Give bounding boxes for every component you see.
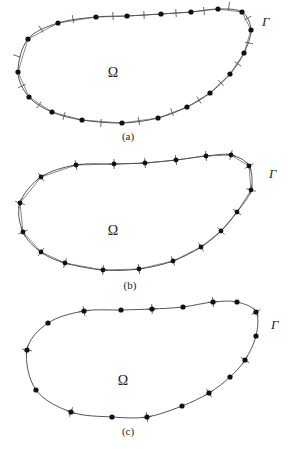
caption-a: (a) [122, 130, 135, 143]
node-dot [174, 158, 179, 163]
node-dot [74, 163, 79, 168]
boundary-label-a: Γ [261, 14, 270, 29]
node-dot [39, 175, 44, 180]
tick-mark [72, 15, 73, 23]
node-dot [204, 154, 209, 159]
boundary-label-b: Γ [268, 166, 277, 181]
node-dot [239, 9, 244, 14]
node-dot [109, 414, 114, 419]
element-ticks-c [22, 297, 260, 422]
caption-c: (c) [122, 425, 135, 438]
figure-b: Ω Γ (b) [15, 150, 277, 292]
figure-a: Ω Γ (a) [13, 2, 270, 143]
node-dot [124, 13, 129, 18]
node-dot [215, 6, 220, 11]
node-dot [219, 229, 224, 234]
node-dot [45, 320, 50, 325]
node-dot [155, 115, 160, 120]
node-dot [144, 414, 149, 419]
node-dot [21, 230, 26, 235]
boundary-curve-c [26, 301, 257, 418]
node-dot [101, 268, 106, 273]
node-dot [93, 14, 98, 19]
element-ticks-a [13, 2, 253, 127]
node-dot [248, 27, 253, 32]
boundary-curve-b [19, 154, 252, 270]
caption-b: (b) [124, 279, 137, 292]
node-dot [55, 20, 60, 25]
node-dot [184, 104, 189, 109]
node-dot [179, 403, 184, 408]
node-dot [253, 333, 258, 338]
domain-label-b: Ω [108, 223, 118, 238]
node-dot [158, 11, 163, 16]
node-dot [229, 153, 234, 158]
element-polygon-b [20, 155, 251, 270]
node-dot [249, 188, 254, 193]
node-dot [188, 9, 193, 14]
boundary-element-diagram: Ω Γ (a) Ω Γ (b) Ω Γ (c) [0, 0, 288, 449]
node-dot [33, 387, 38, 392]
node-dot [234, 299, 239, 304]
node-dot [180, 304, 185, 309]
node-dot [39, 250, 44, 255]
node-dot [206, 390, 211, 395]
node-dot [24, 347, 29, 352]
boundary-label-c: Γ [270, 317, 279, 332]
node-dot [171, 259, 176, 264]
node-dot [49, 109, 54, 114]
node-dot [137, 267, 142, 272]
node-dot [79, 117, 84, 122]
node-dot [227, 71, 232, 76]
tick-mark [176, 9, 177, 17]
element-ticks-b [15, 150, 256, 275]
node-dot [227, 374, 232, 379]
domain-label-c: Ω [118, 373, 128, 388]
node-dot [210, 299, 215, 304]
node-dot [149, 306, 154, 311]
node-dot [253, 309, 258, 314]
node-dot [207, 90, 212, 95]
node-dot [25, 36, 30, 41]
node-dot [15, 69, 20, 74]
node-dot [63, 261, 68, 266]
nodes-a [15, 6, 253, 125]
node-dot [143, 161, 148, 166]
node-dot [18, 201, 23, 206]
node-dot [68, 409, 73, 414]
node-dot [242, 357, 247, 362]
node-dot [118, 307, 123, 312]
tick-mark [203, 7, 204, 15]
node-dot [235, 210, 240, 215]
node-dot [199, 245, 204, 250]
node-dot [112, 162, 117, 167]
node-dot [247, 164, 252, 169]
node-dot [81, 308, 86, 313]
element-polygon-a [18, 9, 251, 123]
domain-label-a: Ω [108, 65, 118, 80]
figure-c: Ω Γ (c) [22, 297, 279, 438]
tick-mark [101, 119, 102, 127]
node-dot [26, 94, 31, 99]
node-dot [119, 120, 124, 125]
node-dot [241, 50, 246, 55]
